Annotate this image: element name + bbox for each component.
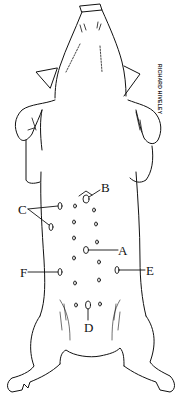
label-f: F [20, 266, 27, 279]
teat-b [83, 195, 89, 203]
label-d: D [84, 321, 93, 334]
pig-outline-drawing [0, 0, 186, 395]
label-c: C [18, 203, 27, 216]
label-e: E [146, 264, 154, 277]
artist-signature: RICHARD HIVELEY [157, 64, 163, 114]
pig-diagram: B A C D E F RICHARD HIVELEY [0, 0, 186, 395]
label-b: B [101, 181, 110, 194]
label-a: A [118, 244, 127, 257]
